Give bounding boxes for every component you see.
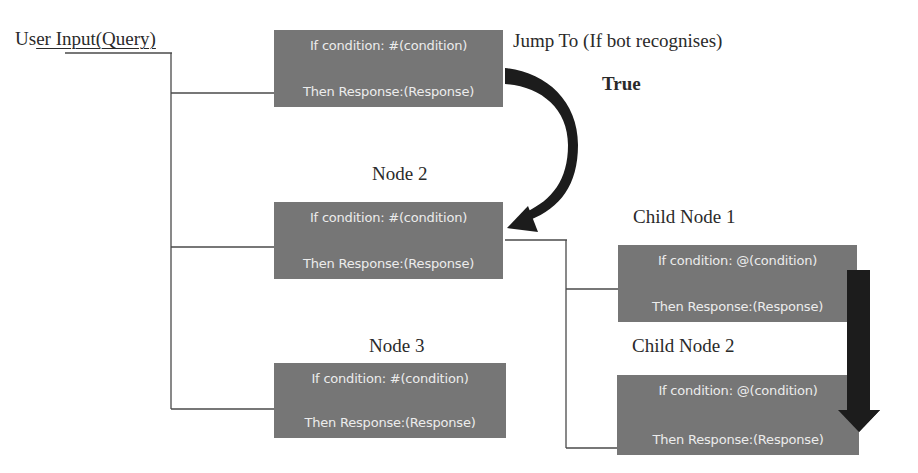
child-node-1-title: Child Node 1 — [633, 206, 735, 228]
child-node-2-box[interactable]: If condition: @(condition) Then Response… — [617, 375, 859, 455]
node-1-box[interactable]: If condition: #(condition) Then Response… — [274, 30, 503, 107]
node-3-title: Node 3 — [369, 335, 424, 357]
child-node-1-response: Then Response:(Response) — [618, 299, 857, 314]
node-3-condition: If condition: #(condition) — [274, 371, 506, 386]
child-connector-lines — [505, 240, 626, 448]
node-3-response: Then Response:(Response) — [274, 415, 506, 430]
child-node-2-title: Child Node 2 — [632, 335, 734, 357]
node-3-box[interactable]: If condition: #(condition) Then Response… — [274, 363, 506, 438]
root-label-user-input: User Input(Query) — [15, 28, 156, 50]
node-2-response: Then Response:(Response) — [274, 256, 503, 271]
jump-to-label: Jump To (If bot recognises) — [513, 30, 722, 52]
child-node-1-box[interactable]: If condition: @(condition) Then Response… — [618, 245, 857, 322]
node-2-title: Node 2 — [372, 163, 427, 185]
true-label: True — [602, 73, 641, 95]
child-node-2-response: Then Response:(Response) — [617, 432, 859, 447]
child-node-1-condition: If condition: @(condition) — [618, 253, 857, 268]
node-2-box[interactable]: If condition: #(condition) Then Response… — [274, 202, 503, 279]
root-label-underlined: er Input(Query) — [36, 28, 156, 49]
root-label-prefix: Us — [15, 28, 36, 49]
child-node-2-condition: If condition: @(condition) — [617, 383, 859, 398]
node-1-condition: If condition: #(condition) — [274, 38, 503, 53]
root-trunk-lines — [65, 53, 285, 409]
node-2-condition: If condition: #(condition) — [274, 210, 503, 225]
node-1-response: Then Response:(Response) — [274, 84, 503, 99]
jump-curved-arrow-icon — [505, 68, 578, 232]
